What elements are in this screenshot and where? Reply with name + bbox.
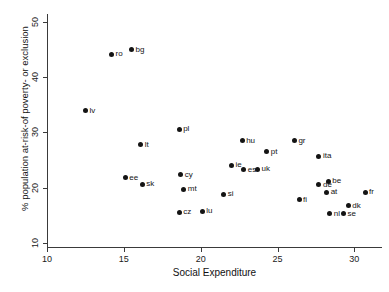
data-point-marker — [177, 127, 182, 132]
data-point-label: be — [332, 176, 341, 185]
x-tick-label: 25 — [272, 254, 282, 264]
data-point-label: cz — [183, 207, 191, 216]
data-point-marker — [109, 52, 114, 57]
x-tick-label: 15 — [119, 254, 129, 264]
data-point-label: ro — [116, 49, 123, 58]
x-tick-mark — [278, 248, 279, 252]
data-point-label: uk — [262, 164, 270, 173]
data-point-marker — [346, 203, 351, 208]
data-point-label: ee — [129, 173, 138, 182]
data-point-marker — [123, 175, 128, 180]
x-tick-mark — [47, 248, 48, 252]
x-tick-mark — [354, 248, 355, 252]
y-axis-title: % population at-risk-of poverty- or excl… — [19, 19, 30, 219]
data-point-marker — [177, 210, 182, 215]
data-point-label: pt — [271, 147, 278, 156]
y-tick-label: 20 — [30, 181, 40, 195]
data-point-marker — [326, 179, 331, 184]
data-point-marker — [181, 187, 186, 192]
x-tick-mark — [124, 248, 125, 252]
x-tick-label: 20 — [196, 254, 206, 264]
data-point-label: bg — [136, 45, 145, 54]
x-tick-mark — [201, 248, 202, 252]
y-tick-label: 40 — [30, 70, 40, 84]
data-point-label: gr — [298, 136, 305, 145]
data-point-label: fi — [303, 195, 307, 204]
data-point-label: mt — [188, 184, 197, 193]
data-point-marker — [221, 192, 226, 197]
y-tick-label: 50 — [30, 15, 40, 29]
y-tick-label: 10 — [30, 236, 40, 250]
data-point-marker — [255, 167, 260, 172]
x-tick-label: 30 — [349, 254, 359, 264]
data-point-label: nl — [334, 209, 340, 218]
y-tick-label: 30 — [30, 125, 40, 139]
data-point-label: ita — [323, 151, 331, 160]
data-point-label: sk — [146, 179, 154, 188]
data-point-marker — [363, 190, 368, 195]
data-point-marker — [297, 197, 302, 202]
data-point-label: pl — [183, 124, 189, 133]
data-point-marker — [200, 209, 205, 214]
data-point-label: si — [228, 189, 234, 198]
x-axis-title: Social Expenditure — [47, 267, 382, 278]
data-point-label: dk — [352, 201, 360, 210]
scatter-chart-figure: 1015202530 1020304050 Social Expenditure… — [0, 0, 389, 292]
x-axis-line — [47, 247, 382, 248]
x-tick-label: 10 — [42, 254, 52, 264]
data-point-marker — [140, 182, 145, 187]
data-point-marker — [229, 163, 234, 168]
data-point-label: hu — [246, 136, 255, 145]
data-point-label: at — [331, 187, 338, 196]
data-point-label: lv — [89, 106, 95, 115]
data-point-marker — [240, 138, 245, 143]
data-point-label: cy — [185, 170, 193, 179]
data-point-label: se — [348, 209, 356, 218]
data-point-label: lu — [206, 206, 212, 215]
data-point-label: fr — [369, 187, 374, 196]
data-point-label: lt — [145, 140, 149, 149]
